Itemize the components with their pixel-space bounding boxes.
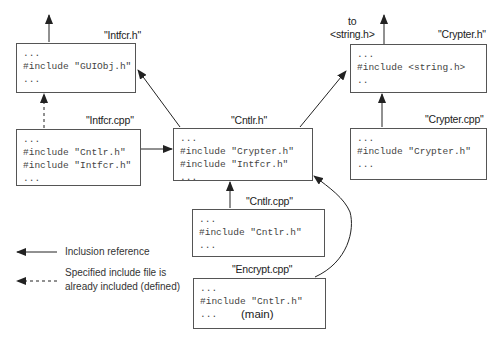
code-line: ...	[357, 132, 486, 145]
code-line: ...	[199, 239, 324, 252]
file-box-intfcr-cpp: ... #include "Cntlr.h" #include "Intfcr.…	[16, 129, 141, 186]
code-line: #include "Cntlr.h"	[23, 146, 140, 159]
code-line: ...	[23, 133, 140, 146]
file-name-intfcr-cpp: "Intfcr.cpp"	[86, 114, 134, 126]
code-line: ...	[23, 172, 140, 185]
code-line: #include "Intfcr.h"	[23, 159, 140, 172]
code-line: #include "Cntlr.h"	[200, 295, 325, 308]
legend-dashed-label-line1: Specified include file is	[65, 266, 166, 279]
main-tag: (main)	[241, 308, 274, 320]
file-name-crypter-cpp: "Crypter.cpp"	[425, 113, 484, 125]
code-line: ...	[180, 132, 312, 145]
code-line: ...	[23, 73, 135, 86]
file-name-crypter-h: "Crypter.h"	[438, 28, 486, 40]
legend-solid-label: Inclusion reference	[65, 245, 150, 258]
arrow-cntlr-h-to-crypter-h	[300, 71, 346, 127]
file-box-cntlr-cpp: ... #include "Cntlr.h" ...	[192, 209, 325, 257]
code-line: ..	[357, 74, 486, 87]
code-line: ...	[180, 171, 312, 184]
code-line: ...	[200, 282, 325, 295]
external-to-label: to	[348, 15, 356, 27]
code-line: #include "Cntlr.h"	[199, 226, 324, 239]
file-box-cntlr-h: ... #include "Crypter.h" #include "Intfc…	[173, 128, 313, 181]
external-string-h-label: <string.h>	[330, 28, 375, 40]
file-name-encrypt-cpp: "Encrypt.cpp"	[232, 263, 292, 275]
code-line: ...	[23, 47, 135, 60]
code-line: #include "GUIObj.h"	[23, 60, 135, 73]
code-line: #include "Intfcr.h"	[180, 158, 312, 171]
file-box-intfcr-h: ... #include "GUIObj.h" ...	[16, 43, 136, 93]
code-line: ...	[199, 213, 324, 226]
code-line: #include <string.h>	[357, 61, 486, 74]
file-name-cntlr-cpp: "Cntlr.cpp"	[246, 195, 293, 207]
file-name-cntlr-h: "Cntlr.h"	[231, 114, 267, 126]
code-line: ...	[357, 48, 486, 61]
file-box-encrypt-cpp: ... #include "Cntlr.h" ...	[193, 278, 326, 329]
file-box-crypter-h: ... #include <string.h> ..	[350, 44, 487, 93]
code-line: ...	[357, 158, 486, 171]
legend-dashed-label-line2: already included (defined)	[65, 280, 180, 293]
file-name-intfcr-h: "Intfcr.h"	[104, 29, 141, 41]
code-line: #include "Crypter.h"	[357, 145, 486, 158]
file-box-crypter-cpp: ... #include "Crypter.h" ...	[350, 128, 487, 180]
code-line: #include "Crypter.h"	[180, 145, 312, 158]
arrow-cntlr-h-to-intfcr-h	[138, 70, 180, 127]
